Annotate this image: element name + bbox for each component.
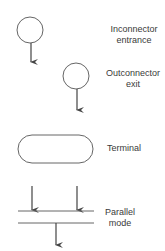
terminal-label-line1: Terminal [104,143,144,154]
terminal-label: Terminal [104,143,144,154]
parallel-mode-label: Parallel mode [102,207,138,229]
outconnector-label-line1: Outconnector [102,68,164,79]
outconnector-symbol [63,63,89,110]
parallel-label-line1: Parallel [102,207,138,218]
inconnector-symbol [17,17,43,62]
terminal-symbol [18,135,93,163]
inconnector-label: Inconnector entrance [104,24,164,46]
parallel-label-line2: mode [102,218,138,229]
inconnector-label-line2: entrance [104,35,164,46]
parallel-mode-symbol [18,186,94,245]
outconnector-label: Outconnector exit [102,68,164,90]
outconnector-label-line2: exit [102,79,164,90]
inconnector-label-line1: Inconnector [104,24,164,35]
